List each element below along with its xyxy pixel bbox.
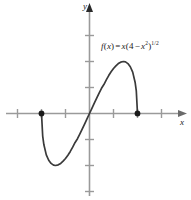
plot-canvas <box>0 0 191 200</box>
equation-minus: − <box>134 41 141 51</box>
endpoint-dot-right <box>135 111 141 117</box>
equation-equals: = <box>114 41 121 51</box>
x-axis-label: x <box>180 118 184 127</box>
endpoint-dot-left <box>39 111 45 117</box>
function-equation-label: f(x)=x(4−x2)1/2 <box>101 41 159 51</box>
x-axis-arrowhead <box>178 110 187 117</box>
function-graph-figure: y x f(x)=x(4−x2)1/2 <box>0 0 191 200</box>
equation-exponent-half: 1/2 <box>151 40 159 46</box>
y-axis-arrowhead <box>86 3 93 12</box>
y-axis-label: y <box>83 2 87 11</box>
equation-four: 4 <box>129 41 134 51</box>
